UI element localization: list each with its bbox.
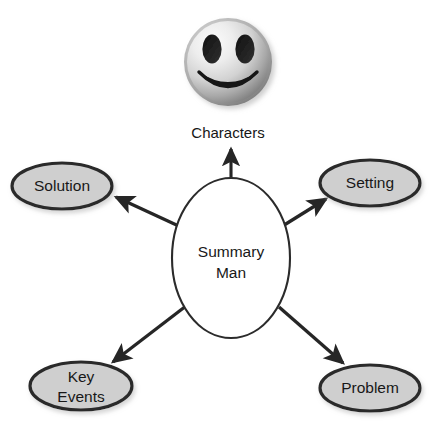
summary-man-label-line1: Summary	[198, 243, 265, 260]
setting-label: Setting	[346, 174, 394, 191]
problem-label: Problem	[341, 379, 399, 396]
connector-center-to-key-events	[113, 306, 186, 362]
key-events-label-line2: Events	[57, 388, 105, 405]
characters-caption: Characters	[191, 124, 264, 141]
smiley-left-eye-icon	[202, 34, 221, 63]
summary-man-node[interactable]: Summary Man	[172, 178, 290, 338]
concept-map-svg: Characters Summary Man Solution Setting …	[0, 0, 434, 425]
characters-node[interactable]: Characters	[184, 18, 272, 141]
diagram-canvas: Characters Summary Man Solution Setting …	[0, 0, 434, 425]
connector-center-to-problem	[279, 307, 343, 363]
key-events-label-line1: Key	[68, 368, 95, 385]
solution-label: Solution	[34, 177, 90, 194]
connector-center-to-setting	[281, 199, 326, 227]
summary-man-label-line2: Man	[216, 264, 246, 281]
smiley-face-icon	[184, 18, 272, 106]
connector-center-to-solution	[116, 197, 183, 228]
smiley-right-eye-icon	[235, 34, 254, 63]
